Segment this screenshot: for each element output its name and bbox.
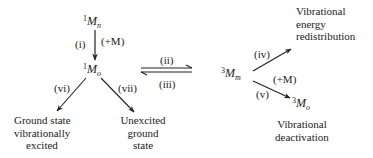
collision-partner-label-1: (+M)	[101, 35, 124, 47]
species-3m-m: 3Mm	[221, 66, 241, 82]
step-label-iv: (iv)	[254, 48, 270, 60]
outcome-vibrational-deactivation: Vibrational deactivation	[274, 118, 330, 143]
step-label-vi: (vi)	[54, 82, 70, 94]
step-label-v: (v)	[256, 88, 269, 100]
species-1m-n: 1Mn	[83, 14, 101, 30]
outcome-unexcited-ground-state: Unexcited ground state	[118, 114, 168, 152]
step-label-i: (i)	[75, 38, 85, 50]
equilibrium-arrows	[141, 65, 192, 75]
step-label-vii: (vii)	[118, 82, 137, 94]
species-1m-o: 1Mo	[83, 62, 101, 78]
species-3m-o: 3Mo	[292, 96, 310, 112]
outcome-ground-state-vibrationally-excited: Ground state vibrationally excited	[14, 114, 70, 152]
step-label-iii: (iii)	[159, 78, 176, 90]
collision-partner-label-2: (+M)	[273, 73, 296, 85]
outcome-vibrational-energy-redistribution: Vibrational energy redistribution	[296, 5, 355, 43]
step-label-ii: (ii)	[160, 54, 173, 66]
